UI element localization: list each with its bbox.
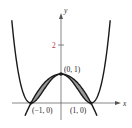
y-tick-label-2: 2: [52, 41, 56, 50]
y-axis-label: y: [63, 6, 68, 15]
point-1-0: [90, 102, 93, 105]
region-between-curves-diagram: y x 2 (0, 1) (−1, 0) (1, 0): [0, 0, 132, 128]
point-neg1-0: [30, 102, 33, 105]
point-0-1: [59, 72, 63, 76]
x-axis-arrow-icon: [115, 101, 121, 105]
point-label-0-1: (0, 1): [64, 65, 81, 74]
y-axis-arrow-icon: [59, 13, 63, 19]
point-label-neg1-0: (−1, 0): [32, 106, 53, 115]
point-label-1-0: (1, 0): [70, 106, 87, 115]
x-axis-label: x: [122, 99, 127, 108]
